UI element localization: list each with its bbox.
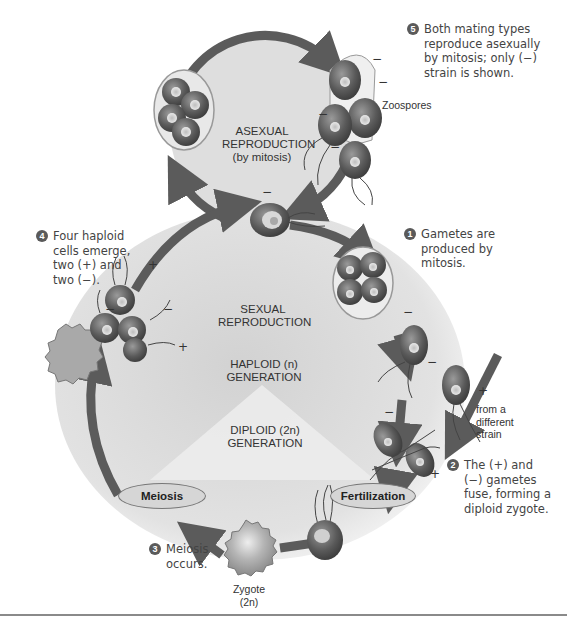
asexual-label: ASEXUAL REPRODUCTION (by mitosis) <box>222 125 302 164</box>
zygote-label: Zygote (2n) <box>229 583 269 608</box>
haploid-label: HAPLOID (n) GENERATION <box>220 358 308 384</box>
step-4-line: Four haploid <box>53 229 130 244</box>
sporangium-left <box>154 70 214 150</box>
minus-sign: − <box>262 185 272 199</box>
minus-sign: − <box>330 140 340 154</box>
step-number-badge: 3 <box>149 543 161 555</box>
step-number-badge: 5 <box>407 23 419 35</box>
gametangium <box>333 247 393 319</box>
asexual-label-line1: ASEXUAL <box>222 125 302 138</box>
step-2-line: (−) gametes <box>464 473 551 488</box>
step-number-badge: 4 <box>36 230 48 242</box>
step-4-note: 4 Four haploid cells emerge, two (+) and… <box>53 229 130 287</box>
step-5-line: Both mating types <box>424 22 540 37</box>
haploid-label-line2: GENERATION <box>220 371 308 384</box>
step-1-line: mitosis. <box>421 256 495 271</box>
sexual-label-line1: SEXUAL <box>218 303 308 316</box>
step-2-note: 2 The (+) and (−) gametes fuse, forming … <box>464 458 551 516</box>
sexual-label-line2: REPRODUCTION <box>218 316 308 329</box>
step-2-line: The (+) and <box>464 458 551 473</box>
zygote-label-line1: Zygote <box>229 583 269 596</box>
step-4-line: two (−). <box>53 273 130 288</box>
plus-sign: + <box>178 340 188 354</box>
bottom-divider <box>0 614 567 616</box>
zygote-label-line2: (2n) <box>229 596 269 609</box>
step-2-line: diploid zygote. <box>464 502 551 517</box>
other-strain-line1: from a <box>476 403 514 416</box>
plus-sign: + <box>148 258 158 272</box>
zoospores-label: Zoospores <box>382 99 432 112</box>
step-1-line: Gametes are <box>421 227 495 242</box>
step-1-line: produced by <box>421 242 495 257</box>
diploid-label-line2: GENERATION <box>225 437 305 450</box>
step-3-note: 3 Meiosis occurs. <box>166 542 208 571</box>
sexual-label: SEXUAL REPRODUCTION <box>218 303 308 329</box>
minus-sign: − <box>384 405 394 419</box>
haploid-label-line1: HAPLOID (n) <box>220 358 308 371</box>
plus-sign: + <box>478 384 488 398</box>
step-number-badge: 2 <box>447 459 459 471</box>
step-5-line: strain is shown. <box>424 66 540 81</box>
step-5-line: reproduce asexually <box>424 37 540 52</box>
other-strain-label: from a different strain <box>476 403 514 441</box>
plus-sign: + <box>430 467 440 481</box>
other-strain-line3: strain <box>476 428 514 441</box>
step-3-line: occurs. <box>166 557 208 572</box>
minus-sign: − <box>105 302 115 316</box>
diploid-label-line1: DIPLOID (2n) <box>225 424 305 437</box>
step-4-line: two (+) and <box>53 258 130 273</box>
step-5-note: 5 Both mating types reproduce asexually … <box>424 22 540 80</box>
step-1-note: 1 Gametes are produced by mitosis. <box>421 227 495 271</box>
fertilization-stage-label: Fertilization <box>330 483 416 509</box>
step-number-badge: 1 <box>404 228 416 240</box>
step-5-line: by mitosis; only (−) <box>424 51 540 66</box>
minus-sign: − <box>318 107 328 121</box>
step-2-line: fuse, forming a <box>464 487 551 502</box>
minus-sign: − <box>163 302 173 316</box>
step-4-line: cells emerge, <box>53 244 130 259</box>
minus-sign: − <box>378 75 388 89</box>
minus-sign: − <box>403 305 413 319</box>
minus-sign: − <box>372 52 382 66</box>
asexual-label-line3: (by mitosis) <box>222 151 302 164</box>
other-strain-line2: different <box>476 416 514 429</box>
asexual-label-line2: REPRODUCTION <box>222 138 302 151</box>
step-3-line: Meiosis <box>166 542 208 557</box>
diploid-label: DIPLOID (2n) GENERATION <box>225 424 305 450</box>
minus-sign: − <box>427 355 437 369</box>
meiosis-stage-label: Meiosis <box>118 483 206 509</box>
